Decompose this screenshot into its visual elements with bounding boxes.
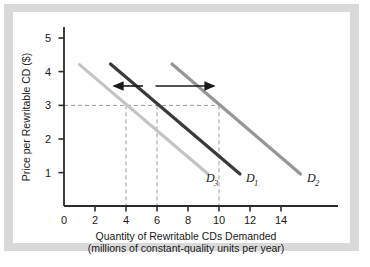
x-tick-label-12: 12 (244, 214, 256, 226)
demand-curve-d3 (80, 65, 209, 174)
y-tick-label-3: 3 (45, 99, 51, 111)
x-axis-title-line2: (millions of constant-quality units per … (88, 242, 285, 254)
x-tick-label-4: 4 (123, 214, 129, 226)
y-axis-title: Price per Rewritable CD ($) (20, 53, 32, 181)
x-tick-label-8: 8 (185, 214, 191, 226)
y-tick-label-4: 4 (45, 66, 51, 78)
curve-label-d1-subscript: 1 (254, 178, 258, 188)
demand-curve-d1 (111, 64, 241, 174)
demand-curve-chart: 5 4 3 2 1 0 2 4 6 8 10 12 14 D 3 D 1 (0, 0, 370, 267)
curve-labels-group: D 3 D 1 D 2 (205, 171, 320, 188)
demand-curves-group (80, 64, 301, 174)
x-tick-label-2: 2 (92, 214, 98, 226)
x-tick-label-0: 0 (61, 214, 67, 226)
x-tick-labels-group: 0 2 4 6 8 10 12 14 (61, 214, 287, 226)
curve-label-d2-subscript: 2 (315, 178, 320, 188)
x-tick-label-14: 14 (275, 214, 287, 226)
x-tick-label-10: 10 (213, 214, 225, 226)
axes-group (59, 27, 339, 212)
reference-lines-group (64, 105, 219, 206)
demand-curve-d2 (172, 64, 301, 174)
curve-label-d3-subscript: 3 (213, 178, 218, 188)
economics-demand-shift-figure: 5 4 3 2 1 0 2 4 6 8 10 12 14 D 3 D 1 (0, 0, 370, 267)
y-tick-labels-group: 5 4 3 2 1 (45, 32, 51, 179)
x-tick-label-6: 6 (154, 214, 160, 226)
x-axis-title-line1: Quantity of Rewritable CDs Demanded (96, 230, 277, 242)
y-tick-label-2: 2 (45, 133, 51, 145)
y-tick-label-5: 5 (45, 32, 51, 44)
y-tick-label-1: 1 (45, 167, 51, 179)
